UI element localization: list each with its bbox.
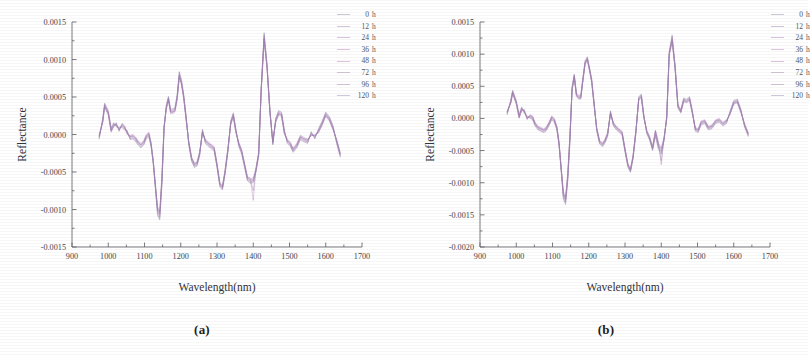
legend-value: 96 [787,79,803,91]
y-tick-label: -0.0010 [41,206,66,215]
legend-item: 12h [337,21,376,33]
legend-value: 36 [353,44,369,56]
legend-item: 24h [771,32,810,44]
legend-unit: h [806,9,810,21]
x-tick-label: 1100 [544,252,560,261]
series-line [507,39,748,201]
legend-line-swatch [337,61,350,62]
legend-item: 48h [337,55,376,67]
x-tick-label: 1200 [581,252,597,261]
x-tick-label: 1000 [508,252,524,261]
x-tick-label: 1100 [136,252,152,261]
legend-item: 12h [771,21,810,33]
caption-b: (b) [404,322,808,338]
legend-line-swatch [771,37,784,38]
y-tick-label: 0.0010 [43,56,66,65]
legend-unit: h [372,90,376,102]
legend-value: 12 [787,21,803,33]
series-line [507,40,748,199]
x-tick-label: 900 [66,252,78,261]
series-line [507,41,748,199]
y-tick-label: 0.0010 [451,50,474,59]
y-tick-label: -0.0010 [449,179,474,188]
legend-unit: h [806,90,810,102]
legend-unit: h [372,9,376,21]
legend-line-swatch [337,95,350,96]
y-tick-label: -0.0005 [41,168,66,177]
legend-value: 12 [353,21,369,33]
legend-line-swatch [771,72,784,73]
legend-item: 36h [771,44,810,56]
legend-line-swatch [337,26,350,27]
legend-value: 120 [787,90,803,102]
plot-b-svg: 90010001100120013001400150016001700-0.00… [404,0,808,305]
legend-value: 48 [353,55,369,67]
legend-item: 96h [337,79,376,91]
legend-unit: h [372,21,376,33]
y-tick-label: -0.0015 [449,211,474,220]
x-tick-label: 1600 [726,252,742,261]
legend-value: 36 [787,44,803,56]
y-tick-label: 0.0000 [451,114,474,123]
x-tick-label: 1500 [281,252,297,261]
legend-line-swatch [337,37,350,38]
series-line [99,37,340,216]
legend-line-swatch [771,61,784,62]
series-line [99,34,340,219]
legend-unit: h [806,21,810,33]
legend-value: 24 [787,32,803,44]
legend-b: 0h12h24h36h48h72h96h120h [771,9,810,102]
legend-item: 72h [771,67,810,79]
legend-line-swatch [337,14,350,15]
y-tick-label: 0.0015 [451,18,474,27]
legend-value: 0 [787,9,803,21]
x-axis-label: Wavelength(nm) [179,281,256,294]
legend-line-swatch [771,84,784,85]
legend-value: 72 [353,67,369,79]
legend-item: 120h [337,90,376,102]
legend-value: 24 [353,32,369,44]
y-tick-label: -0.0015 [41,243,66,252]
legend-unit: h [372,55,376,67]
x-tick-label: 1500 [689,252,705,261]
x-tick-label: 1400 [245,252,261,261]
y-axis-label: Reflectance [424,107,436,161]
legend-line-swatch [771,26,784,27]
legend-value: 0 [353,9,369,21]
legend-value: 120 [353,90,369,102]
legend-line-swatch [771,95,784,96]
legend-unit: h [372,44,376,56]
legend-a: 0h12h24h36h48h72h96h120h [337,9,376,102]
y-tick-label: -0.0005 [449,147,474,156]
series-line [507,37,748,202]
y-tick-label: 0.0015 [43,18,66,27]
x-tick-label: 1000 [100,252,116,261]
legend-value: 72 [787,67,803,79]
legend-unit: h [806,79,810,91]
legend-value: 96 [353,79,369,91]
series-line [507,41,748,198]
legend-item: 36h [337,44,376,56]
y-tick-label: 0.0005 [451,82,474,91]
legend-unit: h [372,67,376,79]
series-line [507,43,748,197]
x-tick-label: 1700 [762,252,778,261]
legend-line-swatch [337,72,350,73]
legend-unit: h [372,32,376,44]
series-line [99,33,340,221]
x-tick-label: 1400 [653,252,669,261]
legend-line-swatch [337,84,350,85]
legend-line-swatch [771,14,784,15]
legend-unit: h [372,79,376,91]
series-line [99,39,340,215]
legend-unit: h [806,44,810,56]
x-axis-label: Wavelength(nm) [587,281,664,294]
legend-item: 0h [337,9,376,21]
legend-item: 0h [771,9,810,21]
series-line [99,36,340,218]
x-tick-label: 1300 [617,252,633,261]
legend-item: 24h [337,32,376,44]
chart-panel-b: 90010001100120013001400150016001700-0.00… [404,0,808,305]
x-tick-label: 1300 [209,252,225,261]
